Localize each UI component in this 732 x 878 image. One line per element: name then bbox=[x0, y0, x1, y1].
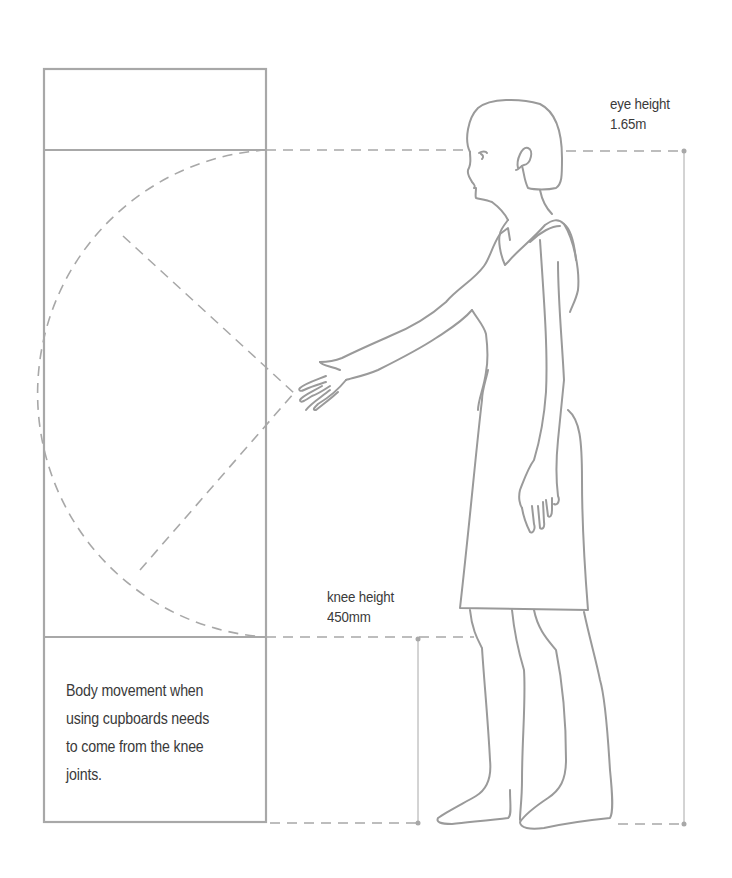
note-line-4: joints. bbox=[66, 760, 209, 788]
reach-radius-lower bbox=[140, 393, 294, 570]
knee-height-dimension bbox=[270, 637, 421, 826]
ear bbox=[516, 148, 531, 170]
raised-arm-lower bbox=[346, 310, 472, 380]
standing-woman-figure bbox=[299, 100, 612, 829]
knee-height-value: 450mm bbox=[327, 607, 394, 627]
rear-leg bbox=[520, 610, 612, 829]
front-leg-back bbox=[512, 610, 525, 820]
reach-arc-curve bbox=[38, 150, 266, 637]
body-movement-note: Body movement when using cupboards needs… bbox=[66, 676, 209, 788]
eye-height-label-line1: eye height bbox=[610, 94, 670, 114]
note-line-3: to come from the knee bbox=[66, 732, 209, 760]
eye bbox=[479, 152, 487, 160]
side-hand bbox=[522, 498, 552, 533]
eye-height-dimension bbox=[566, 149, 687, 827]
reach-arc bbox=[38, 150, 474, 637]
reaching-hand bbox=[299, 362, 346, 410]
raised-arm-upper bbox=[320, 234, 500, 362]
face-profile bbox=[468, 152, 508, 220]
knee-height-label-line1: knee height bbox=[327, 587, 394, 607]
front-leg bbox=[438, 610, 511, 824]
knee-height-label: knee height 450mm bbox=[327, 587, 394, 627]
eye-height-value: 1.65m bbox=[610, 114, 670, 134]
reach-radius-upper bbox=[123, 236, 294, 393]
head-hair bbox=[467, 100, 562, 190]
eye-height-label: eye height 1.65m bbox=[610, 94, 670, 134]
hanging-arm bbox=[519, 240, 564, 508]
back bbox=[564, 224, 578, 312]
neck-back bbox=[540, 190, 552, 214]
torso-front bbox=[472, 310, 488, 410]
note-line-2: using cupboards needs bbox=[66, 704, 209, 732]
note-line-1: Body movement when bbox=[66, 676, 209, 704]
